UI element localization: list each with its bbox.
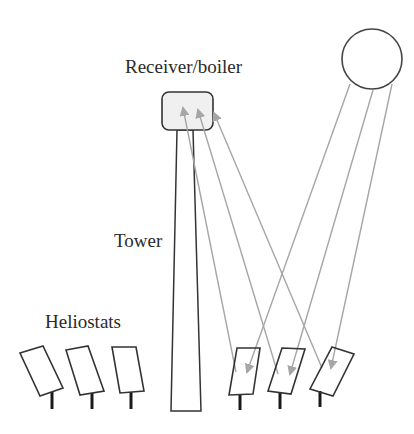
heliostat-3 bbox=[112, 347, 144, 409]
heliostat-1 bbox=[20, 346, 63, 409]
heliostat-mirror bbox=[268, 348, 305, 394]
heliostat-mirror bbox=[112, 347, 144, 393]
heliostat-mirror bbox=[66, 346, 104, 395]
receiver-label: Receiver/boiler bbox=[125, 57, 242, 76]
heliostat-mirror bbox=[20, 346, 63, 396]
sun-icon bbox=[342, 29, 402, 89]
heliostat-2 bbox=[66, 346, 104, 409]
sun-rays bbox=[247, 84, 392, 374]
heliostat-mirror bbox=[229, 348, 260, 395]
heliostats-label: Heliostats bbox=[45, 312, 121, 331]
tower-label: Tower bbox=[114, 231, 162, 250]
receiver-boiler bbox=[162, 92, 213, 130]
sun-ray-3 bbox=[331, 84, 392, 368]
reflected-ray-3 bbox=[214, 113, 322, 368]
